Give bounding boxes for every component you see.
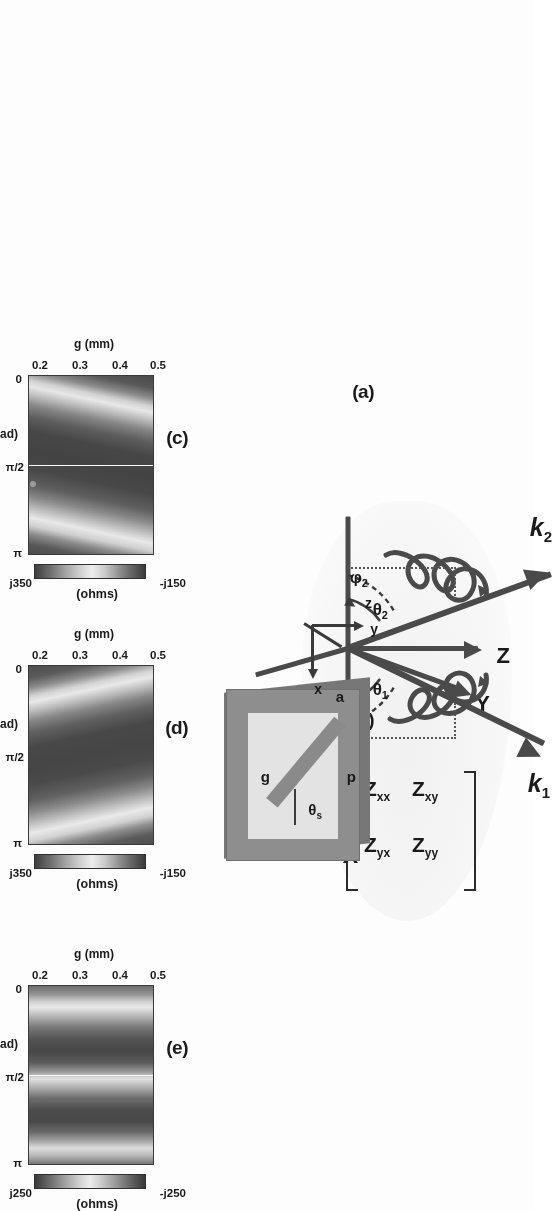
panel-b-axis-x-label: x [314,681,322,697]
projection-dashed-bottom [348,567,456,569]
panel-d-xtick-pi: π [13,837,22,849]
panel-b-axis-y-line [312,625,354,628]
panel-c: (c) 0 π/2 π θₛ (rad) 0.2 0.3 0.4 0.5 g (… [4,301,194,591]
projection-dashed-bottom-side [454,567,456,599]
projection-dashed-top-side [454,703,456,739]
panel-e-xtick-0: 0 [16,983,22,995]
panel-b-label-theta-s: θs [308,801,322,821]
panel-d-scan-noise [29,666,153,844]
panel-b: (b) p θs a g x [184,591,384,881]
panel-c-midline [29,465,153,466]
panel-c-colorbar [34,564,146,579]
panel-e: (e) 0 π/2 π θₛ (rad) 0.2 0.3 0.4 0.5 g (… [4,911,194,1201]
matrix-cell-zxy: Zxy [412,777,438,804]
panel-d-xtick-pi-over-2: π/2 [6,751,24,763]
panel-e-colorbar [34,1174,146,1189]
panel-b-theta-s-base: θ [308,801,316,818]
panel-a-label: (a) [352,381,374,403]
panel-e-midline [29,1075,153,1076]
k1-label-sub: 1 [542,784,550,801]
panel-e-colorbar-max-label: j250 [10,1187,32,1199]
panel-b-axis-y-arrowhead [354,621,364,631]
axis-z-label: Z [497,643,510,669]
k1-label: k1 [528,769,550,801]
panel-b-axis-y-label: y [370,621,378,637]
panel-e-ytick-0-3: 0.3 [72,969,88,981]
panel-d-yaxis-title: g (mm) [74,627,114,641]
panel-c-ytick-0-5: 0.5 [150,359,166,371]
matrix-cell-zxy-base: Z [412,777,425,800]
angle-phi-2-base: φ [350,568,362,587]
panel-e-plot-area [28,985,154,1165]
panel-e-xtick-pi-over-2: π/2 [6,1071,24,1083]
panel-c-colorbar-min-label: -j150 [160,577,186,589]
panel-d-xtick-0: 0 [16,663,22,675]
panel-e-colorbar-min-label: -j250 [160,1187,186,1199]
scan-speck [30,481,36,487]
panel-c-xtick-pi-over-2: π/2 [6,461,24,473]
panel-e-ytick-0-5: 0.5 [150,969,166,981]
panel-d-heatmap-image [28,665,154,845]
panel-e-colorbar-unit: (ohms) [76,1197,118,1211]
panel-e-ytick-0-2: 0.2 [32,969,48,981]
k1-label-base: k [528,769,542,797]
panel-e-yaxis-title: g (mm) [74,947,114,961]
panel-b-axis-x-arrowhead [308,669,318,679]
panel-b-axis-z-label: z [365,595,372,611]
panel-d-ytick-0-5: 0.5 [150,649,166,661]
panel-c-yaxis-title: g (mm) [74,337,114,351]
panel-d-ytick-0-4: 0.4 [112,649,128,661]
panel-d-xaxis-title: θₛ (rad) [0,717,18,731]
panel-c-xtick-0: 0 [16,373,22,385]
theta-s-reference-line [294,789,296,825]
matrix-cell-zxy-sub: xy [425,790,438,804]
panel-b-theta-s-sub: s [316,810,322,821]
k2-label-base: k [530,513,544,541]
waveguide-block [224,687,360,861]
panel-c-xtick-pi: π [13,547,22,559]
angle-phi-2-label: φ2 [350,568,368,589]
angle-phi-2-sub: 2 [362,577,368,589]
panel-c-ytick-0-4: 0.4 [112,359,128,371]
panel-e-xaxis-title: θₛ (rad) [0,1037,18,1051]
panel-d: (d) 0 π/2 π θₛ (rad) 0.2 0.3 0.4 0.5 g (… [4,591,194,881]
panel-b-axis-triad: x y z [286,601,376,685]
panel-d-label: (d) [165,717,188,739]
panel-b-axis-x-line [312,625,315,671]
panel-c-plot-area [28,375,154,555]
k2-label: k2 [530,513,552,545]
panel-d-colorbar-max-label: j350 [10,867,32,879]
panel-b-label-g: g [261,768,270,785]
k2-label-sub: 2 [544,528,552,545]
panel-c-label: (c) [166,427,188,449]
panel-d-colorbar [34,854,146,869]
panel-b-label-p: p [347,768,356,785]
panel-d-plot-area [28,665,154,845]
panel-b-label-a: a [336,688,344,705]
panel-d-colorbar-unit: (ohms) [76,877,118,891]
panel-c-heatmap-image [28,375,154,555]
matrix-bracket-right [464,771,476,891]
panel-c-xaxis-title: θₛ (rad) [0,427,18,441]
matrix-cell-zyy: Zyy [412,833,438,860]
panel-e-xtick-pi: π [13,1157,22,1169]
panel-c-ytick-0-3: 0.3 [72,359,88,371]
panel-e-heatmap-image [28,985,154,1165]
panel-c-colorbar-max-label: j350 [10,577,32,589]
panel-c-ytick-0-2: 0.2 [32,359,48,371]
matrix-cell-zyy-base: Z [412,833,425,856]
panel-e-ytick-0-4: 0.4 [112,969,128,981]
panel-d-colorbar-min-label: -j150 [160,867,186,879]
matrix-cell-zyy-sub: yy [425,846,438,860]
panel-b-axis-z-arrowhead [344,597,358,611]
panel-d-ytick-0-2: 0.2 [32,649,48,661]
panel-e-label: (e) [166,1037,188,1059]
panel-d-ytick-0-3: 0.3 [72,649,88,661]
